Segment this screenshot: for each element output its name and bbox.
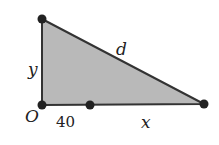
label-d: d (116, 39, 127, 59)
label-origin: O (25, 106, 39, 126)
vertex-top-point (38, 15, 47, 24)
label-40: 40 (56, 113, 75, 131)
vertex-right-point (200, 100, 209, 109)
label-x: x (141, 112, 151, 132)
triangle-shape (42, 19, 204, 105)
midpoint-40 (86, 101, 95, 110)
triangle-diagram: O y d 40 x (0, 0, 219, 145)
label-y: y (27, 59, 38, 79)
